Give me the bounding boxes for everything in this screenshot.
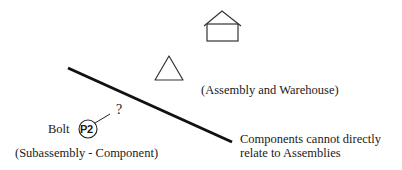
- question-mark: ?: [116, 103, 122, 117]
- connector-line: [95, 114, 110, 123]
- bolt-label: Bolt: [48, 122, 70, 136]
- assembly-warehouse-label: (Assembly and Warehouse): [201, 83, 339, 97]
- subassembly-component-label: (Subassembly - Component): [15, 146, 158, 160]
- house-icon: [204, 11, 241, 41]
- part-code-label: P2: [80, 122, 93, 136]
- constraint-note: Components cannot directly relate to Ass…: [240, 132, 402, 160]
- triangle-icon: [155, 56, 183, 80]
